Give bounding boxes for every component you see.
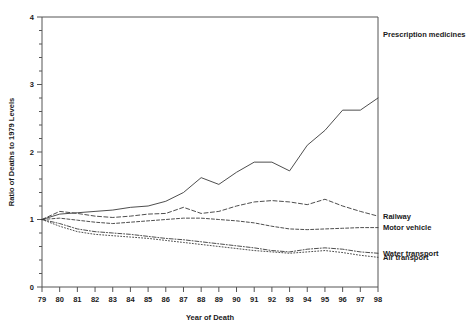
y-axis-title: Ratio of Deaths to 1979 Levels xyxy=(7,98,16,206)
x-tick-label: 81 xyxy=(73,295,81,304)
series-label-air-transport: Air transport xyxy=(383,253,429,262)
x-tick-label: 92 xyxy=(268,295,276,304)
x-axis-title: Year of Death xyxy=(186,313,234,322)
x-tick-label: 90 xyxy=(232,295,240,304)
chart-series xyxy=(42,98,378,257)
x-tick-label: 88 xyxy=(197,295,205,304)
x-tick-label: 98 xyxy=(374,295,382,304)
chart-container: 0123479808182838485868788899091929394959… xyxy=(0,0,472,332)
x-tick-label: 94 xyxy=(303,295,312,304)
x-tick-label: 91 xyxy=(250,295,258,304)
y-tick-label: 0 xyxy=(30,283,34,292)
y-tick-label: 4 xyxy=(30,13,35,22)
series-label-motor-vehicle: Motor vehicle xyxy=(383,223,431,232)
chart-text-labels: 0123479808182838485868788899091929394959… xyxy=(7,13,466,322)
x-tick-label: 84 xyxy=(126,295,135,304)
x-tick-label: 79 xyxy=(38,295,46,304)
series-line-air-transport xyxy=(42,220,378,258)
x-tick-label: 80 xyxy=(56,295,64,304)
series-line-motor-vehicle xyxy=(42,218,378,229)
series-label-prescription-medicines: Prescription medicines xyxy=(383,30,466,39)
y-tick-label: 2 xyxy=(30,148,34,157)
x-tick-label: 86 xyxy=(162,295,170,304)
x-tick-label: 82 xyxy=(91,295,99,304)
x-tick-label: 97 xyxy=(356,295,364,304)
x-tick-label: 85 xyxy=(144,295,152,304)
x-tick-label: 96 xyxy=(338,295,346,304)
x-tick-label: 93 xyxy=(285,295,293,304)
x-tick-label: 87 xyxy=(179,295,187,304)
y-tick-label: 3 xyxy=(30,80,34,89)
x-tick-label: 89 xyxy=(215,295,223,304)
x-tick-label: 83 xyxy=(109,295,117,304)
y-tick-label: 1 xyxy=(30,215,34,224)
series-line-prescription-medicines xyxy=(42,98,378,220)
series-line-water-transport xyxy=(42,220,378,254)
x-tick-label: 95 xyxy=(321,295,329,304)
line-chart: 0123479808182838485868788899091929394959… xyxy=(0,0,472,332)
series-line-railway xyxy=(42,199,378,219)
series-label-railway: Railway xyxy=(383,212,412,221)
